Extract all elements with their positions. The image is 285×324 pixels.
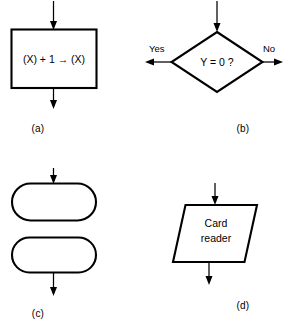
branch-arrow-yes — [145, 59, 172, 66]
io-text-line2: reader — [201, 232, 232, 244]
terminal-stadium-lower — [12, 238, 96, 273]
branch-label-no: No — [263, 43, 275, 54]
input-arrow-d — [212, 183, 219, 205]
output-arrow-d — [206, 262, 213, 285]
branch-label-yes: Yes — [149, 43, 165, 54]
decision-text-b: Y = 0 ? — [200, 56, 234, 68]
panel-a-process: (X) + 1 → (X) (a) — [0, 0, 142, 162]
caption-a: (a) — [0, 123, 109, 134]
panel-c-drawing — [0, 162, 142, 324]
panel-d-io: Card reader (d) — [143, 162, 285, 324]
io-text-line1: Card — [205, 217, 228, 229]
input-arrow-a — [50, 1, 57, 30]
panel-b-drawing: Yes No Y = 0 ? — [143, 0, 285, 162]
process-text-a: (X) + 1 → (X) — [23, 53, 85, 65]
input-arrow-b — [214, 1, 221, 32]
panel-a-drawing: (X) + 1 → (X) — [0, 0, 142, 162]
panel-b-decision: Yes No Y = 0 ? (b) — [143, 0, 285, 162]
flowchart-figure: (X) + 1 → (X) (a) Yes No — [0, 0, 285, 324]
caption-b: (b) — [172, 123, 285, 134]
input-arrow-c — [50, 168, 57, 184]
panel-c-terminals: (c) — [0, 162, 142, 324]
output-arrow-c — [50, 272, 57, 296]
caption-c: (c) — [0, 308, 109, 319]
terminal-stadium-upper — [12, 184, 96, 221]
caption-d: (d) — [172, 300, 285, 311]
output-arrow-a — [50, 88, 57, 109]
branch-arrow-no — [263, 59, 284, 66]
